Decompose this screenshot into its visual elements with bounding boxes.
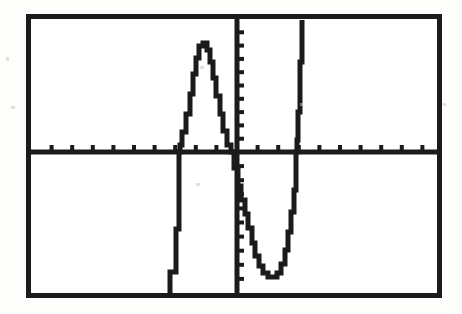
scan-speckle: [6, 57, 9, 61]
calculator-screen-frame: [26, 14, 442, 298]
scan-speckle: [443, 103, 446, 106]
plot-area: [31, 19, 437, 293]
scan-speckle: [11, 106, 15, 109]
function-plot: [31, 19, 437, 293]
screenshot-root: [0, 0, 462, 314]
